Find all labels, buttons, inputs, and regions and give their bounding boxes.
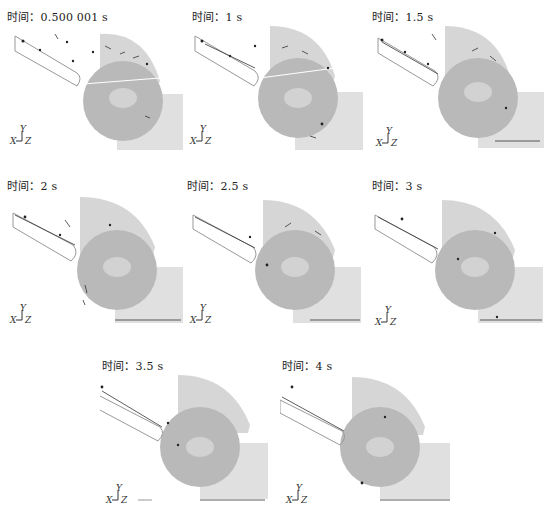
time-label: 时间：0.500 001 s — [7, 8, 108, 24]
snapshot-panel-7: 时间：4 s YXZ — [280, 355, 460, 511]
time-label: 时间：1.5 s — [372, 8, 433, 24]
time-label: 时间：2 s — [7, 177, 57, 193]
axis-triad: YXZ — [10, 124, 40, 148]
time-label: 时间：4 s — [282, 357, 332, 373]
axis-triad: YXZ — [106, 483, 136, 507]
snapshot-panel-4: 时间：2.5 s YXZ — [185, 175, 365, 335]
snapshot-panel-0: 时间：0.500 001 s YXZ — [5, 6, 185, 166]
snapshot-panel-5: 时间：3 s YXZ — [370, 175, 545, 335]
axis-triad: YXZ — [286, 483, 316, 507]
snapshot-panel-2: 时间：1.5 s YXZ — [370, 6, 545, 166]
snapshot-panel-6: 时间：3.5 s YXZ — [100, 355, 280, 511]
time-label: 时间：2.5 s — [187, 177, 248, 193]
axis-triad: YXZ — [376, 126, 406, 150]
time-label: 时间：3 s — [372, 177, 422, 193]
axis-triad: YXZ — [375, 305, 405, 329]
snapshot-panel-1: 时间：1 s YXZ — [190, 6, 370, 166]
time-label: 时间：3.5 s — [102, 357, 163, 373]
time-label: 时间：1 s — [192, 8, 242, 24]
axis-triad: YXZ — [190, 303, 220, 327]
axis-triad: YXZ — [10, 303, 40, 327]
axis-triad: YXZ — [190, 124, 220, 148]
decorative-mark — [138, 499, 152, 501]
simulation-scene — [370, 175, 545, 325]
snapshot-panel-3: 时间：2 s YXZ — [5, 175, 185, 335]
